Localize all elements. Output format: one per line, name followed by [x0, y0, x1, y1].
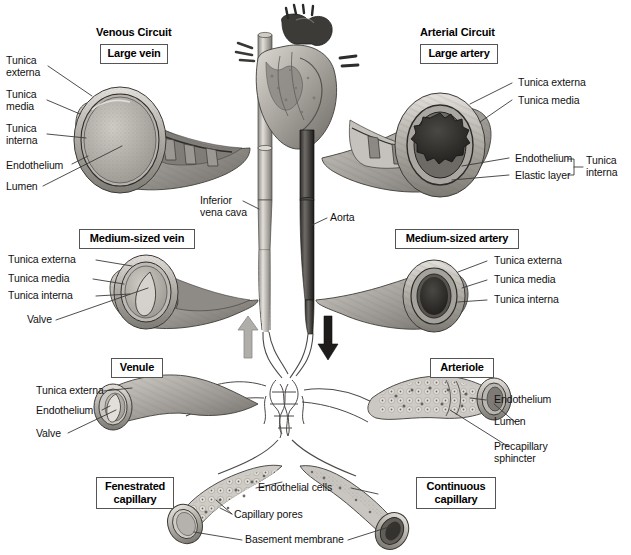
label-medium-vein-tunica-externa: Tunica externa: [8, 254, 76, 266]
label-medium-artery-tunica-interna: Tunica interna: [494, 294, 559, 306]
label-large-vein-tunica-externa: Tunica externa: [6, 55, 40, 78]
label-medium-artery-tunica-media: Tunica media: [494, 274, 555, 286]
box-fenestrated-capillary[interactable]: Fenestrated capillary: [96, 477, 174, 509]
label-large-vein-tunica-interna: Tunica interna: [6, 123, 37, 146]
label-endothelial-cells: Endothelial cells: [258, 482, 332, 494]
label-venule-endothelium: Endothelium: [36, 405, 93, 417]
label-aorta: Aorta: [330, 212, 355, 224]
heart-illustration: [236, 5, 358, 334]
large-vein-illustration: [74, 87, 250, 193]
label-large-vein-tunica-media: Tunica media: [6, 89, 37, 112]
venule-illustration: [94, 375, 258, 430]
label-large-artery-tunica-interna: Tunica interna: [586, 155, 617, 178]
label-arteriole-endothelium: Endothelium: [494, 394, 551, 406]
arteriole-illustration: [368, 376, 511, 420]
box-continuous-capillary[interactable]: Continuous capillary: [416, 477, 496, 509]
label-basement-membrane: Basement membrane: [245, 534, 344, 546]
medium-artery-illustration: [316, 260, 468, 332]
medium-vein-illustration: [110, 255, 258, 329]
label-venule-tunica-externa: Tunica externa: [36, 385, 104, 397]
label-medium-artery-tunica-externa: Tunica externa: [494, 255, 562, 267]
label-large-vein-endothelium: Endothelium: [6, 160, 63, 172]
arterial-circuit-header: Arterial Circuit: [420, 26, 495, 38]
label-large-artery-tunica-media: Tunica media: [518, 95, 579, 107]
box-large-vein[interactable]: Large vein: [100, 44, 168, 64]
box-venule[interactable]: Venule: [111, 358, 163, 378]
label-large-vein-lumen: Lumen: [6, 181, 38, 193]
label-medium-vein-tunica-media: Tunica media: [8, 273, 69, 285]
diagram-canvas: Venous Circuit Arterial Circuit Large ve…: [0, 0, 631, 555]
venous-circuit-header: Venous Circuit: [96, 26, 172, 38]
label-medium-vein-tunica-interna: Tunica interna: [8, 290, 73, 302]
capillary-bed: [186, 332, 372, 476]
box-arteriole[interactable]: Arteriole: [430, 358, 494, 378]
label-venule-valve: Valve: [36, 428, 61, 440]
large-artery-illustration: [322, 93, 491, 197]
label-large-artery-elastic-layer: Elastic layer: [515, 170, 570, 182]
venous-flow-arrow: [238, 316, 258, 358]
arterial-flow-arrow: [318, 316, 338, 360]
label-large-artery-tunica-externa: Tunica externa: [518, 77, 586, 89]
label-arteriole-precapillary-sphincter: Precapillary sphincter: [494, 441, 548, 464]
label-arteriole-lumen: Lumen: [494, 416, 526, 428]
box-large-artery[interactable]: Large artery: [420, 44, 498, 64]
box-medium-vein[interactable]: Medium-sized vein: [79, 229, 195, 249]
label-inferior-vena-cava: Inferior vena cava: [200, 195, 247, 218]
box-medium-artery[interactable]: Medium-sized artery: [395, 229, 519, 249]
label-large-artery-endothelium: Endothelium: [515, 153, 572, 165]
label-capillary-pores: Capillary pores: [234, 509, 303, 521]
label-medium-vein-valve: Valve: [27, 314, 52, 326]
